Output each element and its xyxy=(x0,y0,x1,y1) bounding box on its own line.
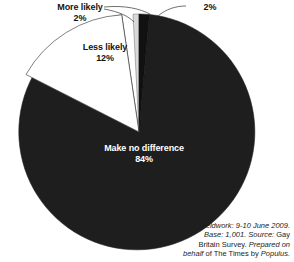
label-top-right-value: 2% xyxy=(196,2,224,13)
pie-chart: More likely 2% Less likely 12% 2% Make n… xyxy=(0,0,294,262)
source-note: Fieldwork: 9-10 June 2009. Base: 1,001. … xyxy=(178,221,290,259)
label-more-likely-text: More likely xyxy=(57,2,102,12)
label-more-likely: More likely 2% xyxy=(38,2,122,24)
label-make-no-difference-text: Make no difference xyxy=(104,143,184,153)
label-less-likely-value: 12% xyxy=(62,53,148,64)
source-note-line2-italic: Base: 1,001. Source: xyxy=(204,230,274,239)
label-more-likely-value: 2% xyxy=(38,13,122,24)
source-note-line4-roman: of The Times by xyxy=(203,249,260,258)
label-less-likely: Less likely 12% xyxy=(62,42,148,64)
label-make-no-difference-value: 84% xyxy=(74,154,214,165)
source-note-line3-roman: Britain Survey. xyxy=(198,240,246,249)
source-note-line4-italic: behalf xyxy=(183,249,203,258)
label-make-no-difference: Make no difference 84% xyxy=(74,143,214,165)
source-note-line4-italic2: Populus. xyxy=(261,249,290,258)
source-note-line3-italic: Prepared on xyxy=(247,240,290,249)
label-less-likely-text: Less likely xyxy=(83,42,127,52)
source-note-line2-roman: Gay xyxy=(274,230,290,239)
source-note-line1: Fieldwork: 9-10 June 2009. xyxy=(200,221,290,230)
label-top-right-text: 2% xyxy=(204,2,217,12)
